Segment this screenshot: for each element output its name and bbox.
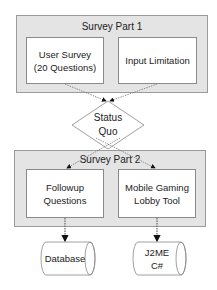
- survey-part-2-title: Survey Part 2: [15, 154, 205, 165]
- followup-questions-box: Followup Questions: [26, 169, 104, 218]
- database-label: Database: [42, 242, 88, 275]
- j2me-csharp-label: J2ME C#: [134, 242, 180, 275]
- mobile-gaming-lobby-tool-box: Mobile Gaming Lobby Tool: [118, 169, 196, 218]
- user-survey-box: User Survey (20 Questions): [26, 37, 104, 84]
- input-limitation-box: Input Limitation: [118, 37, 197, 84]
- status-quo-label: Status Quo: [80, 111, 136, 139]
- survey-part-1-title: Survey Part 1: [17, 21, 207, 32]
